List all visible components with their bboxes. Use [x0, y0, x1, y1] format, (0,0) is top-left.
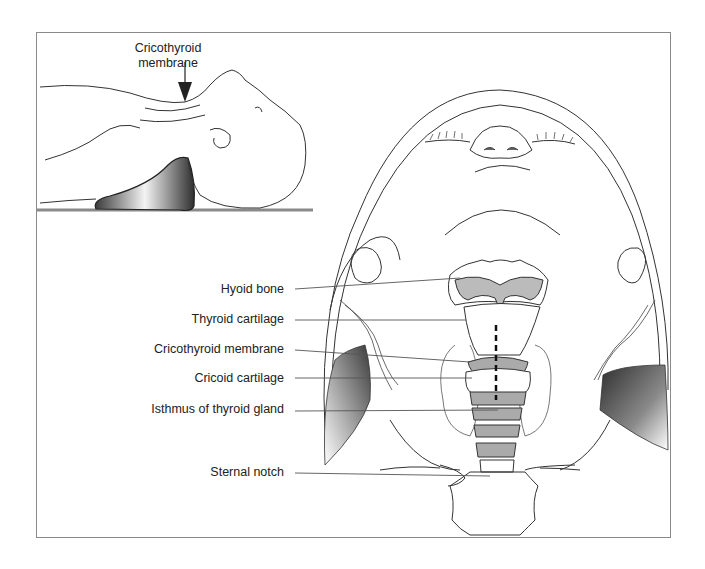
- right-shoulder-shade: [600, 365, 668, 450]
- inset-side-view: [37, 70, 313, 211]
- label-thyroid-cartilage: Thyroid cartilage: [192, 312, 284, 326]
- inset-label: Cricothyroid membrane: [118, 41, 218, 71]
- label-isthmus-thyroid-gland: Isthmus of thyroid gland: [151, 402, 284, 416]
- label-hyoid-bone: Hyoid bone: [221, 282, 284, 296]
- label-sternal-notch: Sternal notch: [210, 465, 284, 479]
- anatomy-illustration: [0, 0, 705, 569]
- label-cricothyroid-membrane: Cricothyroid membrane: [154, 342, 284, 356]
- inset-label-line1: Cricothyroid: [118, 41, 218, 56]
- larynx: [448, 260, 548, 472]
- label-cricoid-cartilage: Cricoid cartilage: [194, 371, 284, 385]
- left-shoulder-shade: [324, 345, 370, 465]
- inset-label-line2: membrane: [118, 56, 218, 71]
